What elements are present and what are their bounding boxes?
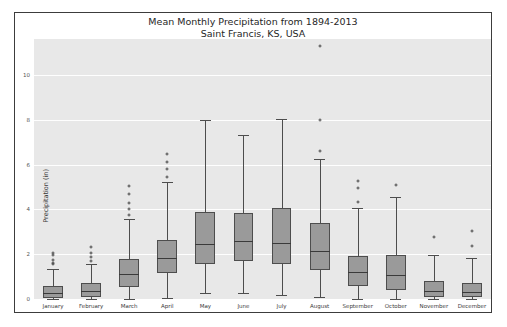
- x-tick-label: February: [79, 303, 103, 309]
- x-tick-label: April: [161, 303, 174, 309]
- chart-subtitle: Saint Francis, KS, USA: [15, 28, 491, 40]
- y-tick-label: 0: [27, 296, 31, 302]
- chart-figure: Mean Monthly Precipitation from 1894-201…: [14, 12, 492, 313]
- x-tick-label: March: [121, 303, 138, 309]
- whisker-cap-low: [86, 299, 97, 300]
- x-tick-label: October: [385, 303, 407, 309]
- y-tick-label: 2: [27, 251, 31, 257]
- whisker-cap-low: [352, 299, 363, 300]
- y-tick-label: 6: [27, 162, 31, 168]
- outlier-marker: [470, 230, 473, 231]
- outlier-marker: [470, 246, 473, 247]
- y-axis-label-wrap: Precipitation (in): [48, 39, 49, 299]
- y-tick-label: 4: [27, 206, 31, 212]
- x-tick-label: September: [343, 303, 373, 309]
- whisker-cap-low: [390, 299, 401, 300]
- x-tick-label: May: [200, 303, 211, 309]
- whisker-cap-low: [428, 299, 439, 300]
- x-tick-label: November: [420, 303, 449, 309]
- cropped-text-sliver: [0, 0, 507, 10]
- whisker-cap-low: [47, 299, 58, 300]
- x-tick-label: August: [310, 303, 329, 309]
- chart-title: Mean Monthly Precipitation from 1894-201…: [15, 16, 491, 28]
- y-axis-label: Precipitation (in): [42, 169, 50, 223]
- x-tick-label: December: [458, 303, 487, 309]
- whisker-cap-low: [466, 299, 477, 300]
- boxplot-december: [34, 39, 491, 299]
- median-line: [462, 292, 482, 293]
- x-tick-label: January: [43, 303, 64, 309]
- x-tick-label: June: [237, 303, 249, 309]
- plot-axes: 0246810 JanuaryFebruaryMarchAprilMayJune…: [34, 39, 491, 299]
- whisker-cap-low: [124, 299, 135, 300]
- chart-title-block: Mean Monthly Precipitation from 1894-201…: [15, 16, 491, 39]
- gridline: [34, 299, 491, 300]
- y-tick-label: 10: [23, 72, 30, 78]
- whisker-cap-high: [466, 258, 477, 259]
- box-iqr: [462, 283, 482, 297]
- x-tick-label: July: [277, 303, 287, 309]
- y-tick-label: 8: [27, 117, 31, 123]
- screenshot-root: Mean Monthly Precipitation from 1894-201…: [0, 0, 507, 327]
